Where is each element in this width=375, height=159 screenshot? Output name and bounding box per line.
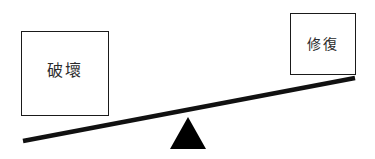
- left-pan-box: 破壞: [21, 31, 109, 116]
- left-pan-label: 破壞: [47, 63, 83, 79]
- triangle-fulcrum: [170, 117, 206, 149]
- balance-scale-diagram: 破壞 修復: [0, 0, 375, 159]
- right-pan-label: 修復: [307, 37, 339, 51]
- right-pan-box: 修復: [290, 13, 356, 75]
